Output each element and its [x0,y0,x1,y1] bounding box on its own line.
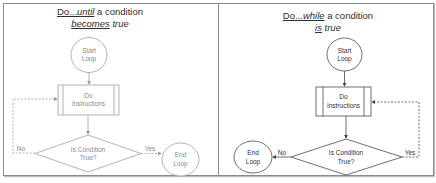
right-decision-label: Is Condition [329,149,364,156]
right-end-label: End [247,149,259,156]
left-start-label: Start [82,47,96,54]
svg-text:Loop: Loop [82,55,97,63]
right-decision-diamond [291,139,402,175]
flowchart-shapes: Start Loop Do Instructions Is Condition … [0,0,436,183]
left-decision-label: Is Condition [71,146,106,153]
left-end-label: End [175,151,187,158]
left-yes-label: Yes [145,145,156,152]
left-flowchart [13,38,199,177]
svg-text:True?: True? [338,158,355,165]
svg-text:Instructions: Instructions [327,102,361,109]
svg-text:Loop: Loop [337,55,352,63]
right-no-label: No [278,149,287,156]
svg-text:Instructions: Instructions [72,100,106,107]
right-process-label: Do [339,93,348,100]
right-yes-label: Yes [405,149,416,156]
flowchart-comparison: Do...until a condition becomes true Do..… [0,0,436,183]
svg-text:Loop: Loop [173,160,188,168]
left-process-label: Do [84,92,93,99]
svg-text:True?: True? [80,154,97,161]
svg-text:Loop: Loop [246,158,261,166]
right-end-ellipse [234,141,272,173]
left-no-label: No [17,145,26,152]
right-start-label: Start [338,47,352,54]
